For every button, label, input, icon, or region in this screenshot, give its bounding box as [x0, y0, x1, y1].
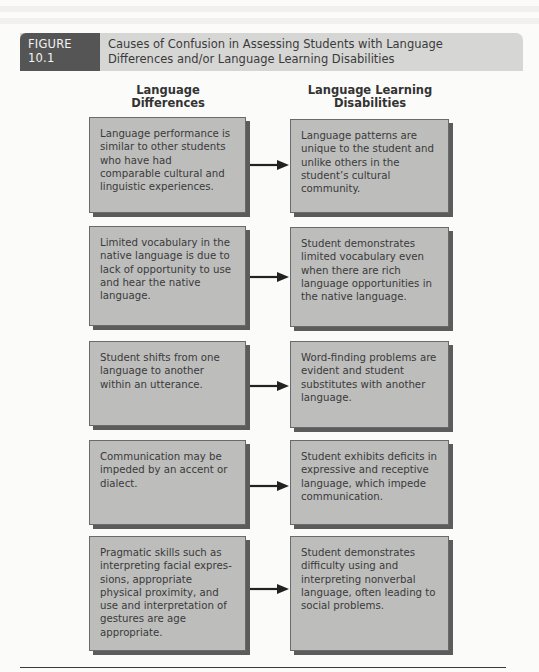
arrow-right-icon [250, 272, 289, 282]
column-heading-language-differences: Language Differences [120, 84, 216, 110]
arrow-right-icon [250, 160, 289, 170]
disability-box-4: Student exhibits deficits in expressive … [290, 440, 449, 525]
figure-title: Causes of Confusion in Assessing Student… [100, 33, 508, 71]
disability-box-3: Word-finding problems are evident and st… [290, 341, 449, 428]
figure-header: FIGURE 10.1 Causes of Confusion in Asses… [20, 33, 523, 71]
arrow-right-icon [250, 481, 289, 491]
disability-box-5: Student demonstrates difficulty using an… [290, 536, 449, 651]
arrow-right-icon [250, 381, 289, 391]
column-heading-language-learning-disabilities: Language Learning Disabilities [300, 84, 440, 110]
disability-box-1: Language patterns are unique to the stud… [290, 119, 449, 213]
difference-box-5: Pragmatic skills such as interpreting fa… [89, 536, 246, 651]
bleed-through-texture [0, 18, 539, 24]
figure-bottom-rule [20, 667, 506, 668]
disability-box-2: Student demonstrates limited vocabulary … [290, 227, 449, 327]
difference-box-1: Language performance is similar to other… [89, 117, 246, 213]
difference-box-3: Student shifts from one language to anot… [89, 341, 246, 426]
figure-label: FIGURE 10.1 [20, 33, 100, 71]
arrow-right-icon [250, 584, 289, 594]
difference-box-4: Communication may be impeded by an accen… [89, 440, 246, 525]
bleed-through-texture [0, 6, 539, 12]
difference-box-2: Limited vocabulary in the native languag… [89, 226, 246, 326]
